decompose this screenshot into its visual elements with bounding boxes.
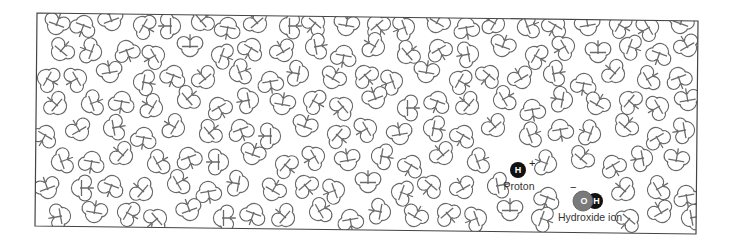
water-molecule-icon	[268, 90, 297, 116]
water-molecule-icon	[95, 172, 127, 202]
water-molecule-icon	[464, 145, 494, 177]
water-molecule-icon	[478, 6, 510, 39]
water-molecule-icon	[45, 33, 79, 67]
water-molecule-icon	[226, 56, 256, 88]
water-molecule-icon	[642, 91, 674, 124]
water-molecule-icon	[431, 197, 465, 231]
water-molecule-icon	[366, 197, 392, 226]
water-molecule-icon	[541, 59, 567, 88]
water-molecule-icon	[516, 119, 546, 151]
water-molecule-icon	[139, 203, 173, 237]
water-molecule-icon	[421, 88, 453, 118]
water-molecule-icon	[333, 146, 362, 172]
proton-symbol: H	[515, 165, 522, 175]
water-molecule-icon	[112, 197, 144, 230]
water-molecule-icon	[62, 114, 95, 146]
water-molecule-icon	[670, 116, 696, 145]
water-molecule-icon	[350, 113, 382, 146]
water-molecule-icon	[452, 15, 481, 41]
water-molecule-icon	[644, 196, 677, 228]
water-molecule-icon	[193, 115, 227, 149]
water-molecule-icon	[573, 11, 602, 37]
water-molecule-icon	[258, 123, 280, 149]
water-molecule-icon	[129, 125, 158, 151]
water-molecule-icon	[95, 5, 127, 35]
water-molecule-icon	[665, 8, 697, 38]
water-molecule-icon	[234, 86, 260, 115]
water-molecule-icon	[284, 59, 310, 88]
water-molecule-icon	[662, 146, 691, 172]
water-molecule-icon	[565, 141, 599, 175]
water-molecule-icon	[643, 40, 675, 70]
proton-label: Proton	[504, 180, 535, 192]
water-ionization-diagram: H + Proton O H − Hydroxide ion	[0, 0, 732, 246]
water-molecule-icon	[214, 205, 236, 231]
water-molecule-icon	[642, 172, 674, 205]
water-molecules	[28, 3, 706, 237]
water-molecule-icon	[385, 120, 414, 146]
water-molecule-icon	[60, 63, 92, 96]
water-molecule-icon	[177, 34, 203, 56]
water-molecule-icon	[663, 64, 695, 94]
water-molecule-icon	[237, 200, 269, 230]
water-molecule-icon	[107, 89, 136, 115]
water-molecule-icon	[477, 109, 511, 143]
water-molecule-icon	[461, 203, 491, 235]
water-molecule-icon	[138, 40, 170, 73]
water-molecule-icon	[585, 40, 611, 62]
water-molecule-icon	[325, 91, 359, 125]
water-molecule-icon	[609, 109, 643, 143]
water-molecule-icon	[224, 169, 250, 198]
water-molecule-icon	[67, 12, 99, 42]
proton-group: H + Proton	[504, 157, 536, 192]
hydroxide-o-symbol: O	[580, 196, 587, 206]
water-molecule-icon	[77, 149, 106, 175]
water-molecule-icon	[607, 173, 641, 207]
water-molecule-icon	[142, 146, 174, 179]
water-molecule-icon	[317, 62, 350, 94]
water-molecule-icon	[298, 85, 330, 118]
water-molecule-icon	[546, 117, 575, 143]
water-molecule-icon	[454, 40, 480, 69]
water-molecule-icon	[185, 3, 219, 37]
water-molecule-icon	[80, 198, 109, 224]
water-molecule-icon	[136, 90, 168, 123]
proton-charge: +	[529, 157, 535, 169]
water-molecule-icon	[125, 173, 159, 207]
hydroxide-h-symbol: H	[593, 196, 600, 206]
water-molecule-icon	[332, 11, 361, 37]
water-molecule-icon	[280, 13, 302, 39]
water-molecule-icon	[487, 31, 519, 61]
water-molecule-icon	[48, 145, 78, 177]
water-molecule-icon	[131, 68, 157, 97]
water-molecule-icon	[28, 120, 61, 152]
water-molecule-icon	[72, 175, 94, 201]
water-molecule-icon	[497, 198, 523, 220]
water-molecule-icon	[206, 149, 228, 175]
water-molecule-icon	[225, 116, 257, 146]
water-molecule-icon	[369, 142, 395, 171]
water-molecule-icon	[256, 69, 285, 95]
water-molecule-icon	[239, 5, 273, 39]
hydroxide-charge: −	[570, 181, 576, 193]
water-molecule-icon	[303, 32, 329, 61]
water-molecule-icon	[613, 85, 647, 119]
water-molecule-icon	[267, 199, 301, 233]
water-molecule-icon	[321, 119, 355, 153]
water-molecule-icon	[289, 111, 321, 141]
water-molecule-icon	[398, 95, 420, 121]
water-molecule-icon	[101, 113, 127, 142]
water-molecule-icon	[158, 110, 190, 143]
water-molecule-icon	[298, 141, 330, 174]
water-molecule-icon	[514, 10, 544, 42]
hydroxide-group: O H − Hydroxide ion	[558, 181, 622, 223]
water-molecule-icon	[632, 62, 664, 95]
water-molecule-icon	[78, 87, 108, 119]
water-molecule-icon	[355, 170, 381, 192]
water-molecule-icon	[425, 137, 459, 171]
water-molecule-icon	[575, 117, 605, 149]
water-molecule-icon	[213, 15, 242, 41]
water-molecule-icon	[548, 85, 574, 114]
water-molecule-icon	[518, 97, 547, 123]
hydroxide-label: Hydroxide ion	[558, 211, 622, 223]
